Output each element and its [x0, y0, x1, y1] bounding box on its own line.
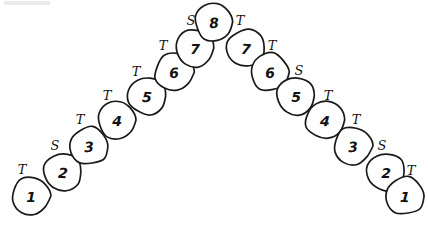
node-ascending-left-chain-4: 4 — [98, 101, 136, 139]
node-number-label: 6 — [169, 65, 180, 82]
edge-label-descending-right-chain-2-S: S — [295, 63, 304, 78]
edge-label-ascending-left-chain-3-T: T — [103, 88, 113, 103]
node-descending-right-chain-5: 5 — [277, 78, 314, 115]
edge-label-ascending-left-chain-4-T: T — [132, 64, 142, 79]
scan-smudge-top-left — [4, 1, 50, 5]
node-number-label: 5 — [142, 89, 153, 106]
node-descending-right-chain-3: 3 — [335, 127, 373, 165]
apex-node: 8 — [195, 3, 232, 40]
edge-label-ascending-left-chain-1-S: S — [51, 138, 60, 153]
node-number-label: 2 — [381, 165, 391, 181]
edge-label-descending-right-chain-1-T: T — [268, 38, 278, 53]
node-number-label: 3 — [348, 139, 359, 156]
node-ascending-left-chain-1: 1 — [13, 177, 51, 215]
node-number-label: 7 — [241, 41, 252, 58]
node-number-label: 1 — [26, 189, 36, 205]
node-number-label: 7 — [190, 41, 200, 57]
node-apex-node-8: 8 — [195, 3, 232, 40]
descending-right-chain: TTSTTST7654321 — [227, 13, 425, 214]
node-number-label: 4 — [111, 113, 122, 129]
scan-artifact-layer — [4, 1, 50, 5]
node-chain-diagram: TSTTTTS1234567 8 TTSTTST7654321 — [0, 0, 428, 227]
node-number-label: 2 — [58, 165, 69, 182]
node-number-label: 8 — [209, 15, 220, 32]
edge-label-ascending-left-chain-6-S: S — [187, 13, 196, 28]
edge-label-ascending-left-chain-0-T: T — [18, 162, 28, 177]
ascending-left-chain: TSTTTTS1234567 — [13, 13, 214, 215]
edge-label-ascending-left-chain-5-T: T — [159, 38, 169, 53]
node-number-label: 5 — [291, 89, 301, 105]
node-number-label: 1 — [400, 189, 411, 206]
edge-label-descending-right-chain-4-T: T — [352, 112, 362, 127]
edge-label-descending-right-chain-0-T: T — [236, 13, 246, 28]
diagram-canvas: TSTTTTS1234567 8 TTSTTST7654321 — [0, 0, 428, 227]
node-number-label: 6 — [265, 65, 276, 82]
node-number-label: 4 — [319, 113, 331, 130]
node-number-label: 3 — [84, 139, 95, 156]
edge-label-descending-right-chain-5-S: S — [378, 138, 387, 153]
edge-label-descending-right-chain-3-T: T — [324, 88, 334, 103]
edge-label-descending-right-chain-6-T: T — [407, 163, 417, 178]
edge-label-ascending-left-chain-2-T: T — [76, 112, 86, 127]
